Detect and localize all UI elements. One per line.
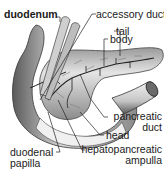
label-duodenal-papilla-2: papilla	[10, 158, 40, 169]
label-accessory-duct: accessory duct	[96, 9, 164, 20]
pancreas-diagram: duodenum accessory duct tail body pancre…	[0, 0, 164, 169]
label-duodenum: duodenum	[4, 9, 58, 20]
label-hepatopancreatic-ampulla-2: ampulla	[80, 155, 162, 166]
label-body: body	[110, 34, 133, 45]
label-head: head	[106, 130, 129, 141]
